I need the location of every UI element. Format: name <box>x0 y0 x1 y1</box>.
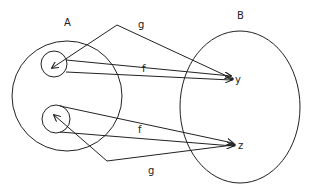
point-z-label: z <box>238 141 243 151</box>
g-top-label: g <box>138 20 144 30</box>
set-a-label: A <box>64 18 71 28</box>
point-y-label: y <box>235 75 241 85</box>
set-b-ellipse <box>180 31 300 183</box>
f-bottom-label: f <box>138 125 142 135</box>
g-bottom-label: g <box>148 166 154 176</box>
preimage-y-circle <box>41 51 67 77</box>
set-mapping-diagram <box>0 0 309 187</box>
g-bottom-path <box>54 115 233 161</box>
f-top-label: f <box>142 64 146 74</box>
f-bottom-arrow-2 <box>60 132 233 146</box>
set-b-label: B <box>237 11 244 21</box>
f-bottom-arrow-1 <box>60 106 233 143</box>
point-z-dot <box>232 143 236 147</box>
point-y-dot <box>230 77 234 81</box>
preimage-z-circle <box>42 105 70 133</box>
